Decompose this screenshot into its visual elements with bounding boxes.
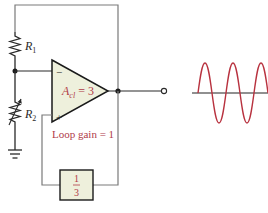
closed-loop-gain-label: Acl = 3 [61, 84, 94, 100]
r2-label: R2 [24, 107, 36, 123]
loop-gain-label: Loop gain = 1 [52, 128, 114, 140]
feedback-numerator: 1 [74, 173, 79, 184]
r1-resistor-icon [10, 32, 20, 71]
potentiometer-arrow-icon [9, 99, 21, 125]
noninverting-input-sign: + [56, 111, 62, 123]
ground-icon [8, 150, 22, 158]
output-terminal-icon[interactable] [161, 88, 166, 93]
oscillator-diagram: R1 R2 − + Acl = 3 Loop gain = 1 1 3 [0, 0, 268, 213]
feedback-denominator: 3 [74, 187, 79, 198]
inverting-input-sign: − [56, 66, 62, 78]
r1-label: R1 [24, 39, 36, 55]
noninverting-feedback-wire [42, 115, 60, 185]
r2-potentiometer-icon [10, 71, 20, 150]
